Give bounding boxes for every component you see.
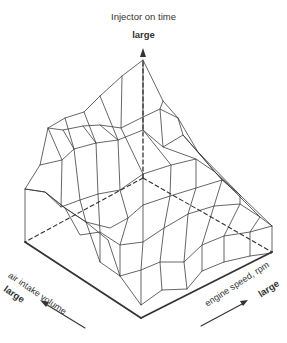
hidden-base-edges xyxy=(25,178,272,252)
surface-mesh xyxy=(25,60,272,305)
z-axis-arrow-icon xyxy=(140,48,146,57)
